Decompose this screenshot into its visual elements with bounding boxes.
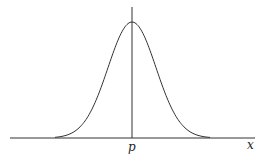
bell-curve-diagram: p x bbox=[0, 0, 263, 159]
axis-label: x bbox=[247, 138, 254, 152]
mean-label: p bbox=[128, 140, 136, 154]
